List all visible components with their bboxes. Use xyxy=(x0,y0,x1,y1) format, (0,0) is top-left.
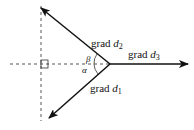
diagram-canvas: grad d2 grad d3 grad d1 β α xyxy=(0,0,194,130)
label-grad-d1: grad d1 xyxy=(90,82,122,96)
arrow-grad-d2 xyxy=(41,8,110,64)
gradient-diagram: grad d2 grad d3 grad d1 β α xyxy=(0,0,194,130)
label-grad-d3: grad d3 xyxy=(128,48,160,62)
label-alpha: α xyxy=(82,65,87,75)
label-grad-d2: grad d2 xyxy=(91,37,123,51)
label-beta: β xyxy=(85,54,91,64)
